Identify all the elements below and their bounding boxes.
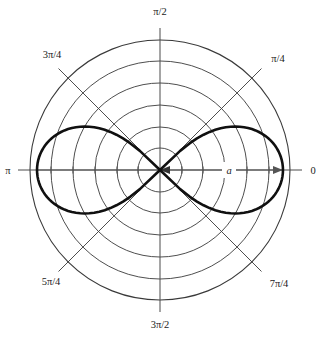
- angle-label-three-pi-over-2: 3π/2: [151, 319, 170, 330]
- parameter-annotation: a: [222, 162, 236, 178]
- polar-plot-figure: π/2 3π/4 π/4 π 0 5π/4 7π/4 3π/2 a: [0, 0, 321, 337]
- angle-label-pi-over-4: π/4: [271, 53, 285, 64]
- angle-label-five-pi-over-4: 5π/4: [42, 276, 61, 287]
- angle-label-three-pi-over-4: 3π/4: [43, 49, 62, 60]
- angle-label-seven-pi-over-4: 7π/4: [270, 278, 289, 289]
- angle-label-zero: 0: [310, 165, 315, 176]
- angle-label-pi: π: [5, 165, 11, 176]
- parameter-label-a: a: [226, 165, 231, 176]
- angle-label-pi-over-2: π/2: [153, 6, 166, 17]
- polar-chart-svg: π/2 3π/4 π/4 π 0 5π/4 7π/4 3π/2 a: [0, 0, 321, 337]
- arrowhead-right-icon: [273, 166, 283, 174]
